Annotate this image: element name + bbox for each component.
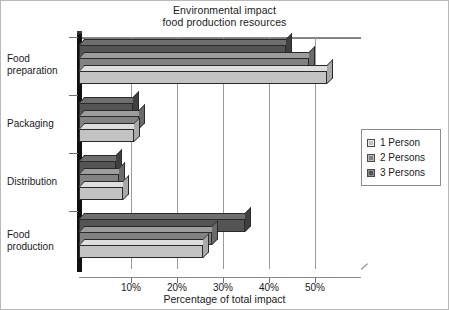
bar-food-preparation-1-person — [79, 71, 327, 84]
legend-swatch-2-persons — [367, 154, 375, 162]
legend-label-2-persons: 2 Persons — [380, 152, 425, 163]
legend-swatch-1-person — [367, 139, 375, 147]
y-tick-3 — [69, 211, 78, 212]
chart-figure: Environmental impact food production res… — [0, 0, 449, 310]
legend-label-1-person: 1 Person — [380, 137, 420, 148]
x-axis-title: Percentage of total impact — [1, 293, 448, 305]
x-tick-label-40: 40% — [246, 282, 292, 293]
y-tick-1 — [69, 95, 78, 96]
plot-floor-edge — [79, 269, 369, 278]
category-label-food-production: Food production — [7, 229, 77, 252]
legend-item-2-persons: 2 Persons — [367, 150, 436, 165]
chart-legend: 1 Person 2 Persons 3 Persons — [361, 129, 441, 186]
category-label-food-preparation: Food preparation — [7, 53, 77, 76]
bar-distribution-1-person — [79, 187, 123, 200]
legend-item-3-persons: 3 Persons — [367, 165, 436, 180]
legend-swatch-3-persons — [367, 169, 375, 177]
y-tick-2 — [69, 153, 78, 154]
chart-title: Environmental impact food production res… — [1, 4, 448, 29]
category-label-distribution: Distribution — [7, 176, 77, 188]
x-tick-label-20: 20% — [154, 282, 200, 293]
legend-item-1-person: 1 Person — [367, 135, 436, 150]
x-tick-label-50: 50% — [292, 282, 338, 293]
x-tick-label-10: 10% — [108, 282, 154, 293]
legend-label-3-persons: 3 Persons — [380, 167, 425, 178]
x-tick-label-30: 30% — [200, 282, 246, 293]
chart-title-line-1: Environmental impact — [1, 4, 448, 16]
chart-title-line-2: food production resources — [1, 16, 448, 28]
bar-packaging-1-person — [79, 129, 134, 142]
bar-food-production-1-person — [79, 245, 203, 258]
category-label-packaging: Packaging — [7, 118, 77, 130]
y-tick-0 — [69, 37, 78, 38]
